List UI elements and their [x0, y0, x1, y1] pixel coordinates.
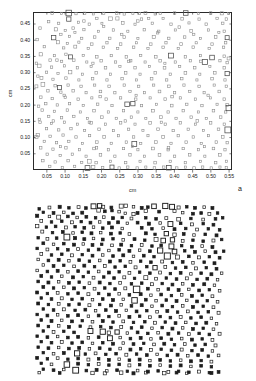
- scatter-marker: [216, 212, 219, 215]
- x-tick-label: 0.15: [76, 174, 90, 179]
- scatter-marker: [158, 248, 163, 253]
- scatter-marker: [60, 341, 63, 344]
- scatter-marker: [64, 226, 67, 229]
- scatter-marker: [118, 293, 121, 296]
- scatter-marker: [63, 264, 66, 267]
- scatter-marker: [78, 259, 81, 262]
- scatter-marker: [185, 321, 188, 324]
- scatter-marker: [118, 363, 121, 366]
- scatter-marker: [190, 338, 193, 341]
- scatter-marker: [190, 365, 193, 368]
- scatter-marker: [171, 327, 174, 330]
- scatter-marker: [176, 311, 179, 314]
- scatter-marker: [119, 204, 123, 208]
- scatter-marker: [83, 264, 86, 267]
- scatter-marker: [132, 372, 135, 375]
- scatter-marker: [196, 228, 199, 231]
- scatter-marker: [111, 226, 114, 229]
- scatter-marker: [63, 368, 66, 371]
- scatter-marker: [201, 245, 204, 248]
- scatter-marker: [97, 270, 100, 273]
- scatter-marker: [107, 271, 110, 274]
- scatter-marker: [121, 227, 124, 230]
- x-tick-label: 0.25: [113, 174, 127, 179]
- scatter-marker: [132, 212, 135, 215]
- scatter-marker: [97, 248, 100, 251]
- scatter-marker: [155, 299, 158, 302]
- scatter-marker: [160, 244, 163, 247]
- scatter-marker: [181, 305, 184, 308]
- scatter-marker: [216, 278, 219, 281]
- scatter-marker: [197, 311, 200, 314]
- scatter-marker: [108, 315, 111, 318]
- scatter-marker: [170, 349, 173, 352]
- scatter-marker: [40, 319, 43, 322]
- scatter-marker: [74, 237, 77, 240]
- scatter-marker: [171, 283, 174, 286]
- scatter-marker: [60, 297, 63, 300]
- scatter-marker: [88, 282, 91, 285]
- scatter-marker: [42, 368, 45, 371]
- scatter-marker: [50, 320, 53, 323]
- scatter-marker: [108, 359, 111, 362]
- scatter-marker: [151, 228, 154, 231]
- scatter-marker: [42, 330, 45, 333]
- x-tick-label: 0.55: [222, 174, 236, 179]
- scatter-marker: [147, 222, 150, 225]
- scatter-marker: [203, 206, 206, 209]
- scatter-marker: [36, 291, 39, 294]
- scatter-marker: [108, 293, 111, 296]
- scatter-marker: [193, 234, 196, 237]
- x-tick-label: 0.45: [186, 174, 200, 179]
- scatter-marker: [118, 271, 121, 274]
- scatter-marker: [67, 271, 70, 274]
- scatter-marker: [40, 340, 43, 343]
- scatter-marker: [187, 333, 190, 336]
- scatter-marker: [119, 336, 122, 339]
- scatter-marker: [67, 215, 70, 218]
- scatter-marker: [195, 322, 198, 325]
- scatter-marker: [186, 299, 189, 302]
- scatter-marker: [87, 315, 90, 318]
- scatter-marker: [208, 213, 211, 216]
- scatter-marker: [98, 259, 101, 262]
- scatter-marker: [110, 232, 113, 235]
- scatter-marker: [72, 212, 75, 215]
- scatter-marker: [124, 265, 127, 268]
- scatter-marker: [221, 217, 224, 220]
- scatter-marker: [81, 253, 84, 256]
- scatter-marker: [101, 238, 104, 241]
- scatter-marker: [154, 321, 157, 324]
- scatter-marker: [201, 294, 204, 297]
- scatter-marker: [46, 336, 49, 339]
- scatter-marker: [41, 230, 44, 233]
- scatter-marker: [72, 276, 75, 279]
- scatter-marker: [92, 237, 95, 240]
- scatter-marker: [135, 353, 138, 356]
- scatter-marker: [142, 254, 145, 257]
- scatter-marker: [88, 329, 93, 334]
- scatter-marker: [126, 332, 129, 335]
- scatter-marker: [124, 287, 127, 290]
- scatter-marker: [37, 258, 40, 261]
- scatter-marker: [78, 346, 81, 349]
- scatter-marker: [132, 298, 138, 304]
- scatter-marker: [212, 239, 215, 242]
- scatter-marker: [57, 302, 60, 305]
- scatter-marker: [175, 371, 178, 374]
- scatter-marker: [83, 226, 86, 229]
- scatter-marker: [139, 293, 142, 296]
- scatter-marker: [212, 328, 215, 331]
- scatter-marker: [50, 221, 53, 224]
- scatter-marker: [50, 254, 53, 257]
- scatter-marker: [138, 249, 141, 252]
- scatter-marker: [48, 215, 51, 218]
- scatter-marker: [37, 324, 40, 327]
- y-tick-label: 0.10: [11, 135, 30, 140]
- scatter-marker: [164, 232, 168, 236]
- scatter-marker: [210, 371, 213, 374]
- scatter-marker: [91, 244, 94, 247]
- scatter-marker: [119, 347, 122, 350]
- scatter-marker: [46, 248, 49, 251]
- scatter-marker: [157, 288, 160, 291]
